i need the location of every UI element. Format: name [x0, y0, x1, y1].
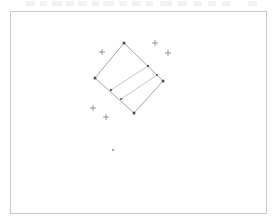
toolbar-mark — [52, 1, 62, 6]
toolbar-mark — [178, 1, 187, 6]
toolbar-mark — [194, 1, 202, 6]
toolbar-mark — [208, 1, 216, 6]
toolbar-mark — [146, 1, 153, 6]
toolbar-mark — [119, 1, 127, 6]
toolbar-mark — [160, 1, 172, 6]
toolbar-mark — [78, 1, 87, 6]
toolbar-mark — [248, 1, 257, 6]
cropped-toolbar — [0, 0, 277, 9]
toolbar-mark — [222, 1, 230, 6]
toolbar-mark — [92, 1, 99, 6]
toolbar-mark — [66, 1, 74, 6]
toolbar-mark — [26, 1, 35, 6]
toolbar-mark — [132, 1, 141, 6]
application-root — [0, 0, 277, 223]
drawing-canvas-frame[interactable] — [10, 11, 267, 214]
toolbar-mark — [40, 1, 47, 6]
toolbar-mark — [103, 1, 114, 6]
